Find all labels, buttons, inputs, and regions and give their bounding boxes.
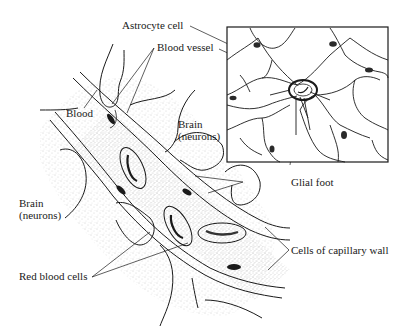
label-astrocyte-cell: Astrocyte cell [122, 19, 183, 31]
label-red-blood-cells: Red blood cells [19, 270, 87, 282]
astrocyte-inset [227, 27, 388, 162]
label-brain-neurons-lower: Brain (neurons) [19, 197, 61, 221]
label-brain-neurons-upper: Brain (neurons) [178, 118, 220, 142]
label-cells-of-capillary-wall: Cells of capillary wall [291, 244, 388, 256]
label-blood-vessel: Blood vessel [157, 41, 214, 53]
label-blood: Blood [66, 107, 93, 119]
label-glial-foot: Glial foot [291, 176, 333, 188]
